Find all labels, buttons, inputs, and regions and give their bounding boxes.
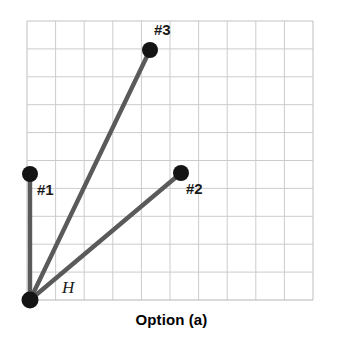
point-3	[142, 42, 158, 58]
point-2-label: #2	[186, 180, 202, 197]
vector-plot-canvas	[0, 0, 343, 341]
grid-lines	[27, 21, 313, 300]
vector-lines	[30, 50, 181, 300]
point-1-label: #1	[37, 181, 53, 198]
vector-line-3	[30, 50, 150, 300]
figure-caption: Option (a)	[0, 311, 343, 328]
point-1	[22, 166, 38, 182]
origin-h-label: H	[62, 278, 74, 298]
point-3-label: #3	[154, 21, 170, 38]
point-2	[173, 165, 189, 181]
figure-option-a: #1 #2 #3 H Option (a)	[0, 0, 343, 341]
point-origin-h	[22, 292, 39, 309]
